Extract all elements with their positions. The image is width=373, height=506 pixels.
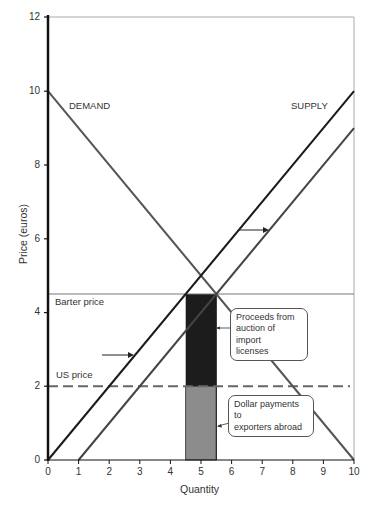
x-tick-label: 1 (69, 466, 89, 477)
chart-svg (0, 0, 373, 506)
y-tick-label: 0 (20, 454, 40, 465)
dollar-payments-bar (186, 386, 217, 460)
us-price-label: US price (56, 369, 92, 380)
chart-area: 12 10 8 6 4 2 0 0 1 2 3 4 5 6 7 8 9 10 Q… (0, 0, 373, 506)
x-axis-title: Quantity (180, 483, 219, 495)
x-tick-label: 10 (344, 466, 364, 477)
supply-label: SUPPLY (291, 100, 328, 111)
y-axis-title: Price (euros) (17, 189, 29, 279)
y-tick-label: 10 (20, 85, 40, 96)
y-tick-label: 2 (20, 380, 40, 391)
x-tick-label: 9 (313, 466, 333, 477)
proceeds-callout-line: auction of import (236, 323, 302, 346)
x-tick-label: 8 (283, 466, 303, 477)
x-tick-label: 5 (191, 466, 211, 477)
dollar-payments-callout: Dollar payments to exporters abroad (228, 395, 314, 437)
x-tick-label: 0 (38, 466, 58, 477)
x-tick-label: 7 (252, 466, 272, 477)
barter-price-label: Barter price (55, 296, 104, 307)
proceeds-bar (186, 294, 217, 386)
proceeds-callout: Proceeds from auction of import licenses (230, 308, 308, 361)
y-tick-label: 4 (20, 306, 40, 317)
x-tick-label: 2 (99, 466, 119, 477)
x-tick-label: 3 (130, 466, 150, 477)
proceeds-callout-line: licenses (236, 346, 302, 357)
y-tick-label: 8 (20, 159, 40, 170)
x-tick-label: 4 (160, 466, 180, 477)
proceeds-callout-line: Proceeds from (236, 312, 302, 323)
y-tick-label: 12 (20, 11, 40, 22)
x-tick-label: 6 (222, 466, 242, 477)
dollar-callout-line: Dollar payments to (234, 399, 308, 422)
demand-label: DEMAND (69, 100, 110, 111)
arrowhead-icon (217, 424, 222, 428)
dollar-callout-line: exporters abroad (234, 422, 308, 433)
